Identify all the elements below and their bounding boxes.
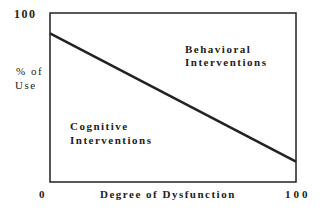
y-axis-label-line1: % of	[16, 64, 43, 78]
x-axis-label: Degree of Dysfunction	[100, 187, 236, 201]
annotation-behavioral-2: Interventions	[185, 55, 267, 69]
annotation-cognitive-2: Interventions	[70, 133, 152, 147]
y-axis-label-line2: Use	[15, 78, 37, 92]
annotation-cognitive-1: Cognitive	[70, 119, 129, 133]
x-tick-100: 100	[285, 187, 311, 201]
chart-plot	[0, 0, 323, 211]
annotation-behavioral-1: Behavioral	[185, 42, 251, 56]
y-tick-100: 100	[14, 7, 37, 21]
x-tick-0: 0	[39, 187, 46, 201]
